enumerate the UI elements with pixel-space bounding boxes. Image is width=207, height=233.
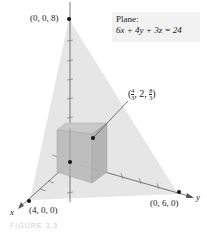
legend-equation: 6x + 4y + 3z = 24 bbox=[116, 25, 196, 36]
point-origin bbox=[68, 160, 72, 164]
plane-legend: Plane: 6x + 4y + 3z = 24 bbox=[112, 12, 200, 42]
point-x-intercept bbox=[27, 199, 31, 203]
fraction-x: 43 bbox=[131, 88, 134, 101]
legend-title: Plane: bbox=[116, 14, 196, 25]
rectangular-box bbox=[57, 123, 107, 183]
label-y-intercept: (0, 6, 0) bbox=[150, 199, 179, 208]
label-y-axis: y bbox=[196, 193, 200, 202]
label-z-intercept: (0, 0, 8) bbox=[30, 14, 59, 23]
y-axis-arrow bbox=[186, 193, 194, 198]
point-y-intercept bbox=[177, 190, 181, 194]
label-box-corner: (43, 2, 83) bbox=[128, 88, 156, 101]
label-x-intercept: (4, 0, 0) bbox=[29, 206, 58, 215]
label-x-axis: x bbox=[10, 208, 14, 217]
x-axis-arrow bbox=[18, 202, 24, 209]
point-z-intercept bbox=[67, 17, 71, 21]
point-box-corner bbox=[91, 136, 95, 140]
figure-caption: FIGURE 3.3 bbox=[10, 222, 58, 229]
